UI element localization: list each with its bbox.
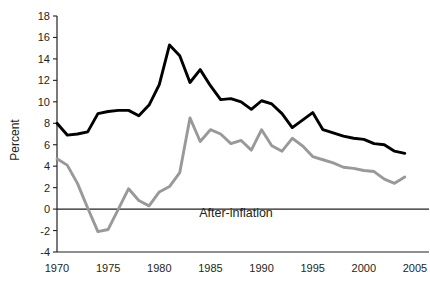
chart-container: 181614121086420-2-4 19701975198019851990… [0,0,430,291]
x-axis-tick-label: 1975 [96,262,120,274]
y-axis-tick-label: 16 [38,31,50,43]
x-axis-tick-label: 2000 [352,262,376,274]
chart-background [0,0,430,291]
x-axis-tick-label: 2005 [403,262,427,274]
series-annotation-label: After-inflation [199,206,273,220]
y-axis-tick-label: 6 [44,139,50,151]
x-axis-tick-label: 1980 [147,262,171,274]
x-axis-tick-label: 1985 [198,262,222,274]
y-axis-tick-label: 8 [44,117,50,129]
x-axis-tick-label: 1995 [300,262,324,274]
y-axis-tick-label: 14 [38,53,50,65]
y-axis-tick-label: 0 [44,203,50,215]
y-axis-title: Percent [8,119,22,161]
y-axis-tick-label: -2 [40,225,50,237]
y-axis-tick-label: 12 [38,74,50,86]
x-axis-tick-label: 1970 [45,262,69,274]
y-axis-tick-label: -4 [40,246,50,258]
line-chart: 181614121086420-2-4 19701975198019851990… [0,0,430,291]
y-axis-tick-label: 2 [44,182,50,194]
y-axis-tick-label: 18 [38,10,50,22]
y-axis-tick-label: 4 [44,160,50,172]
annotation-layer: After-inflation [199,206,273,220]
y-axis-tick-label: 10 [38,96,50,108]
x-axis-tick-label: 1990 [249,262,273,274]
